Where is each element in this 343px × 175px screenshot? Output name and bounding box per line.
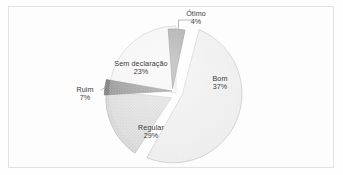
slice-label-ruim: Ruim 7%	[68, 86, 102, 103]
slice-label-otimo: Ótimo 4%	[172, 10, 220, 27]
slice-label-sem-declaracao-percent: 23%	[98, 68, 184, 76]
slice-label-sem-declaracao: Sem declaração 23%	[98, 60, 184, 77]
pie-chart-figure: Ótimo 4% Bom 37% Regular 29% Sem declara…	[0, 0, 343, 175]
slice-label-bom-percent: 37%	[198, 83, 242, 91]
slice-label-bom: Bom 37%	[198, 75, 242, 92]
slice-label-otimo-percent: 4%	[172, 18, 220, 26]
slice-label-regular-percent: 29%	[124, 132, 178, 140]
slice-label-ruim-percent: 7%	[68, 94, 102, 102]
slice-label-regular: Regular 29%	[124, 124, 178, 141]
